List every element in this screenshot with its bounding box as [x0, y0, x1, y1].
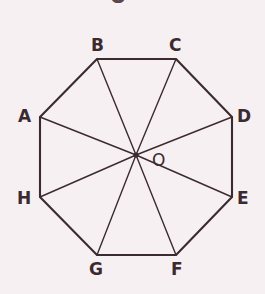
vertex-label-E: E — [237, 190, 249, 207]
center-label-O: O — [152, 152, 165, 169]
radius-OD — [136, 117, 232, 155]
vertex-label-D: D — [237, 108, 251, 125]
radius-OC — [136, 59, 176, 155]
radius-OA — [40, 117, 136, 155]
vertex-label-H: H — [17, 190, 31, 207]
vertex-label-G: G — [89, 261, 103, 278]
vertex-label-B: B — [91, 37, 104, 54]
vertex-label-A: A — [18, 108, 31, 125]
octagon-drawing — [0, 0, 265, 294]
vertex-label-F: F — [171, 261, 183, 278]
vertex-label-C: C — [169, 37, 181, 54]
center-point-dot — [133, 152, 138, 157]
octagon-figure: O ABCDEFGH O — [0, 0, 265, 294]
radius-OB — [97, 59, 136, 155]
